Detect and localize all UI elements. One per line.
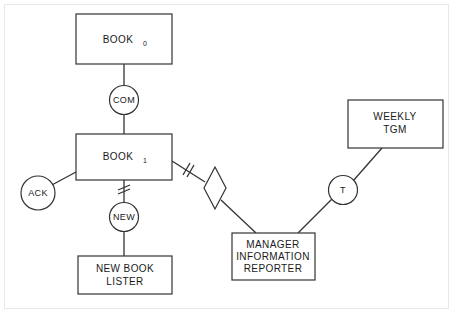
- edge-manager-information-reporter-to-t: [298, 199, 332, 233]
- node-new-book-lister-line2: LISTER: [106, 276, 143, 287]
- node-manager-information-reporter-line2: INFORMATION: [236, 251, 310, 262]
- node-new-book-lister[interactable]: NEW BOOK LISTER: [78, 256, 172, 294]
- node-weekly-tgm-line2: TGM: [383, 124, 406, 135]
- node-weekly-tgm-line1: WEEKLY: [373, 111, 416, 122]
- edge-book1-to-ack: [50, 172, 76, 186]
- node-manager-information-reporter-line3: REPORTER: [244, 263, 303, 274]
- node-book0[interactable]: BOOK 0: [76, 14, 172, 64]
- node-book1-label: BOOK: [103, 151, 134, 162]
- node-book1-subscript: 1: [143, 157, 147, 164]
- diagram-svg: BOOK 0 COM BOOK 1 ACK NEW NEW BOOK LI: [0, 0, 453, 313]
- node-manager-information-reporter-line1: MANAGER: [246, 239, 299, 250]
- node-com[interactable]: COM: [110, 86, 139, 115]
- node-book1[interactable]: BOOK 1: [76, 134, 172, 180]
- edge-diamond-to-manager-information-reporter: [221, 200, 256, 233]
- hash-mark-book1-diamond-icon: [183, 163, 194, 177]
- edge-book1-to-diamond: [172, 161, 205, 182]
- node-manager-information-reporter[interactable]: MANAGER INFORMATION REPORTER: [232, 233, 315, 280]
- node-relationship-diamond[interactable]: [204, 167, 226, 209]
- node-com-label: COM: [113, 95, 135, 105]
- node-new-label: NEW: [113, 212, 135, 222]
- node-new[interactable]: NEW: [110, 203, 139, 232]
- diagram-canvas: BOOK 0 COM BOOK 1 ACK NEW NEW BOOK LI: [0, 0, 453, 313]
- node-relationship-diamond-shape: [204, 167, 226, 209]
- node-new-book-lister-line1: NEW BOOK: [96, 263, 154, 274]
- node-ack-label: ACK: [28, 188, 47, 198]
- edge-t-to-weekly-tgm: [353, 148, 382, 181]
- node-t[interactable]: T: [329, 176, 358, 205]
- node-t-label: T: [340, 185, 346, 195]
- node-weekly-tgm[interactable]: WEEKLY TGM: [348, 100, 443, 148]
- node-book0-subscript: 0: [143, 40, 147, 47]
- page-frame: [5, 5, 449, 309]
- node-ack[interactable]: ACK: [21, 176, 55, 210]
- node-book0-label: BOOK: [103, 34, 134, 45]
